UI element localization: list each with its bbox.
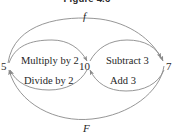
edge-label-divide-by-2: Divide by 2 <box>24 75 74 86</box>
figure-container: Figure 4.6 5 10 7 Multiply by 2 Subtract… <box>0 0 174 139</box>
edge-label-multiply-by-2: Multiply by 2 <box>21 55 79 66</box>
node-value-5: 5 <box>1 60 7 72</box>
edge-label-subtract-3: Subtract 3 <box>106 55 149 66</box>
node-value-7: 7 <box>166 60 172 72</box>
edge-label-add-3: Add 3 <box>110 75 136 86</box>
curve-label-f: f <box>83 10 86 22</box>
curve-label-F-inverse: F <box>83 122 90 134</box>
node-value-10: 10 <box>79 60 90 72</box>
